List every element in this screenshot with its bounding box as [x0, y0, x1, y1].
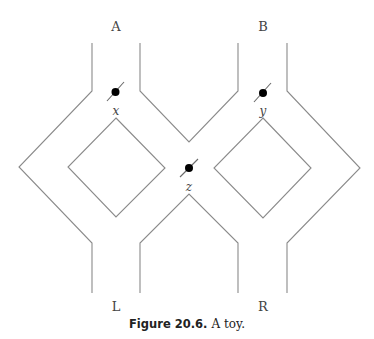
left-inner-diamond	[68, 118, 165, 217]
switch-z: z	[180, 159, 198, 194]
switch-y-dot	[259, 89, 267, 97]
port-label-l: L	[112, 299, 121, 314]
switch-z-label: z	[185, 180, 193, 194]
switch-y-label: y	[259, 104, 267, 118]
lower-middle-wall	[140, 194, 238, 293]
right-inner-diamond	[214, 118, 311, 218]
port-label-a: A	[110, 19, 121, 34]
port-label-r: R	[258, 299, 269, 314]
outer-left-wall	[19, 43, 92, 293]
switch-z-dot	[185, 164, 193, 172]
switch-y: y	[254, 83, 271, 118]
switch-x: x	[107, 82, 124, 118]
upper-middle-wall	[140, 43, 238, 142]
toy-diagram: x y z A B L R	[0, 0, 374, 339]
outer-right-wall	[287, 43, 360, 293]
figure-number: Figure 20.6.	[129, 317, 207, 331]
figure-caption: Figure 20.6.A toy.	[0, 317, 374, 332]
switch-x-dot	[112, 88, 120, 96]
port-label-b: B	[258, 19, 268, 34]
figure-caption-text: A toy.	[211, 317, 245, 331]
switch-x-label: x	[113, 104, 120, 118]
